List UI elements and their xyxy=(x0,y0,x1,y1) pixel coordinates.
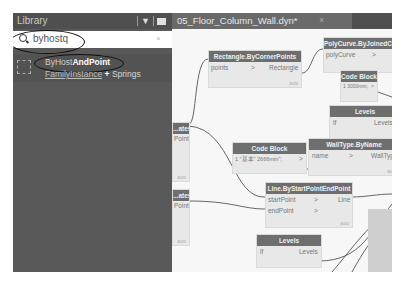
divider xyxy=(153,16,154,26)
port-arrow: > xyxy=(349,152,353,159)
node-rectangle-by-corner-points[interactable]: Rectangle.ByCornerPoints points > Rectan… xyxy=(208,50,302,88)
dynamo-window: Library ▼ 05_Floor_Column_Wall.dyn* × × … xyxy=(13,13,392,272)
close-icon[interactable]: × xyxy=(319,15,324,25)
output-port[interactable]: Point xyxy=(174,202,189,209)
port-arrow: > xyxy=(314,196,318,203)
lacing-label: auto xyxy=(177,175,186,180)
output-port[interactable]: Point xyxy=(174,135,189,142)
package-name: Springs xyxy=(112,69,141,79)
lacing-label: auto xyxy=(289,81,298,86)
package-icon: + xyxy=(105,69,110,79)
library-toolbar: ▼ xyxy=(137,15,166,27)
category-link[interactable]: FamilyInstance xyxy=(45,69,102,79)
node-partial-1[interactable]: ...ates Point auto xyxy=(172,122,190,182)
lacing-label: auto xyxy=(387,169,392,174)
library-title: Library xyxy=(17,15,48,26)
node-partial-2[interactable]: ...ates Point auto xyxy=(172,189,190,246)
node-line-by-start-point-end-point[interactable]: Line.ByStartPointEndPoint startPoint > e… xyxy=(265,182,353,228)
search-result-item[interactable]: ByHostAndPoint FamilyInstance + Springs xyxy=(13,54,172,82)
output-port-rectangle[interactable]: Rectangle xyxy=(269,64,298,71)
library-panel: × ByHostAndPoint FamilyInstance + Spring… xyxy=(13,29,172,272)
port-arrow: > xyxy=(372,51,376,58)
node-levels-1[interactable]: Levels lf Levels xyxy=(329,105,392,139)
input-port-start-point[interactable]: startPoint xyxy=(268,196,295,203)
3d-preview-geometry xyxy=(368,209,392,272)
graph-canvas[interactable]: ...ates Point auto ...ates Point auto Re… xyxy=(172,29,392,272)
node-title: PolyCurve.ByJoinedCurves xyxy=(324,38,392,49)
output-port-walltype[interactable]: WallType xyxy=(371,152,392,159)
input-port-end-point[interactable]: endPoint xyxy=(268,207,294,214)
node-title: Code Block xyxy=(341,71,377,82)
node-polycurve[interactable]: PolyCurve.ByJoinedCurves polyCurve > xyxy=(323,37,392,73)
port-arrow: > xyxy=(371,83,374,89)
search-box[interactable]: × xyxy=(13,31,172,48)
levels-dropdown[interactable]: lf xyxy=(260,248,263,255)
result-category: FamilyInstance + Springs xyxy=(45,69,141,79)
node-wall-type-by-name[interactable]: WallType.ByName name > WallType auto xyxy=(308,138,392,176)
tab-label: 05_Floor_Column_Wall.dyn* xyxy=(177,15,298,26)
port-arrow: > xyxy=(299,155,303,162)
levels-dropdown[interactable]: lf xyxy=(333,119,336,126)
layout-icon[interactable] xyxy=(157,18,166,25)
output-port-levels[interactable]: Levels xyxy=(299,248,318,255)
node-title: Rectangle.ByCornerPoints xyxy=(209,51,301,62)
input-port-polycurve[interactable]: polyCurve xyxy=(326,51,355,58)
node-code-block-1[interactable]: Code Block 1 3000mm; > xyxy=(340,70,378,102)
node-levels-2[interactable]: Levels lf Levels xyxy=(256,234,322,268)
lacing-label: auto xyxy=(177,239,186,244)
tab-workspace[interactable]: 05_Floor_Column_Wall.dyn* × xyxy=(172,13,352,29)
port-arrow: > xyxy=(251,64,255,71)
code-text[interactable]: 1 3000mm; xyxy=(343,83,368,89)
node-icon xyxy=(17,60,31,74)
top-bar: Library ▼ 05_Floor_Column_Wall.dyn* × xyxy=(13,13,392,29)
output-port-line[interactable]: Line xyxy=(338,196,350,203)
output-port-levels[interactable]: Levels xyxy=(374,119,392,126)
node-title: WallType.ByName xyxy=(309,139,392,150)
lacing-label: auto xyxy=(340,221,349,226)
node-title: Levels xyxy=(330,106,392,117)
port-arrow: > xyxy=(314,207,318,214)
node-title: Line.ByStartPointEndPoint xyxy=(266,183,352,194)
divider xyxy=(137,16,138,26)
input-port-points[interactable]: points xyxy=(211,64,228,71)
code-text[interactable]: 1 "基本" 2666mm"; xyxy=(235,155,282,163)
node-code-block-2[interactable]: Code Block 1 "基本" 2666mm"; > xyxy=(232,142,307,174)
node-title: Levels xyxy=(257,235,321,246)
clear-search-icon[interactable]: × xyxy=(156,34,161,43)
filter-icon[interactable]: ▼ xyxy=(141,16,150,26)
annotation-ellipse xyxy=(13,30,85,54)
input-port-name[interactable]: name xyxy=(312,152,328,159)
node-title: Code Block xyxy=(233,143,306,154)
